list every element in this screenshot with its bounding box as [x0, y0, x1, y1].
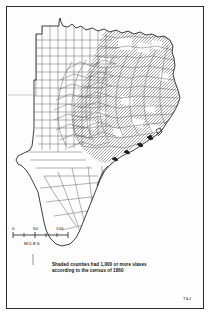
scale-tick-50: 50: [33, 226, 38, 231]
scale-unit-label: MILES: [24, 241, 40, 246]
caption-line-2: according to the census of 1860: [52, 268, 180, 274]
scale-tick-0: 0: [12, 226, 14, 231]
scale-tick-100: 100: [56, 226, 63, 231]
scale-bar-labels: 0 50 100: [12, 226, 74, 234]
county-lines-south: [40, 162, 112, 232]
map-caption: Shaded counties had 1,000 or more slaves…: [52, 262, 180, 275]
credit-mark: T&J: [183, 296, 191, 301]
map-figure: 0 50 100 MILES Shaded counties had 1,000…: [0, 0, 212, 317]
shaded-counties-region: [72, 30, 180, 163]
